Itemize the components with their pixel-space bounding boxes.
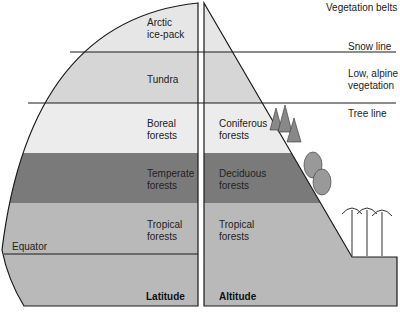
band-coniferous: Coniferous forests — [219, 118, 267, 142]
band-boreal: Boreal forests — [147, 118, 177, 142]
snow-line-label: Snow line — [348, 41, 391, 53]
diagram-canvas — [0, 0, 400, 313]
band-deciduous: Deciduous forests — [219, 168, 266, 192]
tree-line-label: Tree line — [348, 108, 387, 120]
band-tundra: Tundra — [147, 74, 178, 86]
altitude-label: Altitude — [219, 291, 256, 303]
band-tropical-lat: Tropical forests — [147, 219, 182, 243]
band-temperate: Temperate forests — [147, 168, 194, 192]
equator-label: Equator — [12, 241, 47, 253]
palm-trees-icon — [342, 208, 392, 256]
latitude-section — [0, 0, 200, 306]
alpine-label: Low, alpine vegetation — [348, 68, 398, 92]
band-tropical-alt: Tropical forests — [219, 219, 254, 243]
latitude-label: Latitude — [146, 291, 185, 303]
band-arctic: Arctic ice-pack — [147, 17, 184, 41]
legend-title: Vegetation belts — [326, 2, 397, 14]
